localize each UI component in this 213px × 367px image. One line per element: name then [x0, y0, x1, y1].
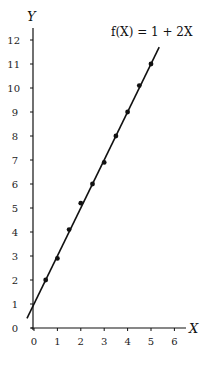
- x-tick-label: 5: [148, 336, 154, 347]
- x-axis-label: X: [188, 321, 199, 336]
- y-tick-label: 1: [12, 299, 18, 310]
- y-tick-label: 11: [7, 59, 20, 70]
- data-point: [55, 256, 60, 261]
- data-point: [125, 110, 130, 115]
- data-point: [43, 278, 48, 283]
- x-tick-label: 0: [31, 336, 37, 347]
- data-point: [137, 83, 142, 88]
- x-tick-label: 6: [171, 336, 177, 347]
- chart: 0123456789101112 0123456 Y X f(X) = 1 + …: [0, 0, 213, 367]
- data-point: [90, 182, 95, 187]
- y-tick-label: 12: [7, 35, 20, 46]
- x-tick-label: 4: [124, 336, 130, 347]
- y-tick-label: 7: [12, 155, 18, 166]
- y-axis-ticks: 0123456789101112: [7, 35, 33, 334]
- data-point: [67, 227, 72, 232]
- data-point: [78, 201, 83, 206]
- y-tick-label: 0: [12, 323, 18, 334]
- y-axis-label: Y: [27, 9, 37, 24]
- data-point: [114, 134, 119, 139]
- x-tick-label: 3: [101, 336, 107, 347]
- y-tick-label: 3: [12, 251, 18, 262]
- x-tick-label: 1: [54, 336, 60, 347]
- y-tick-label: 9: [12, 107, 18, 118]
- y-tick-label: 8: [12, 131, 18, 142]
- y-tick-label: 10: [7, 83, 20, 94]
- data-point: [102, 160, 107, 165]
- x-axis-ticks: 0123456: [31, 328, 178, 347]
- y-tick-label: 6: [12, 179, 18, 190]
- y-tick-label: 5: [12, 203, 18, 214]
- y-tick-label: 2: [12, 275, 18, 286]
- equation-label: f(X) = 1 + 2X: [111, 25, 193, 39]
- data-point: [149, 62, 154, 67]
- y-tick-label: 4: [12, 227, 18, 238]
- x-tick-label: 2: [78, 336, 84, 347]
